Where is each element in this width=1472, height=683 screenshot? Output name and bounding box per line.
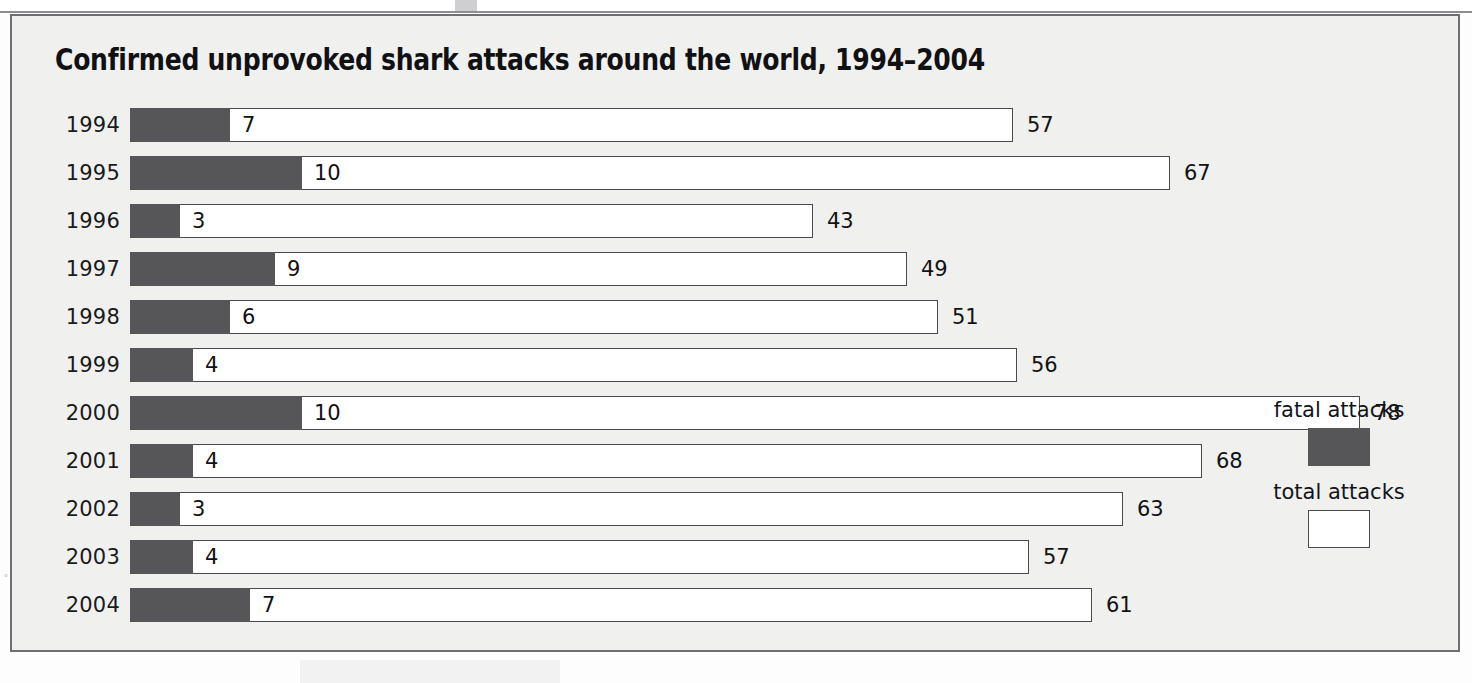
fatal-attacks-bar[interactable] — [130, 252, 275, 286]
year-label: 1994 — [42, 104, 120, 146]
chart-legend: fatal attacks total attacks — [1234, 398, 1444, 562]
year-label: 2004 — [42, 584, 120, 626]
fatal-attacks-bar[interactable] — [130, 444, 193, 478]
fatal-attacks-value: 4 — [205, 444, 218, 478]
total-attacks-value: 57 — [1027, 108, 1054, 142]
fatal-attacks-value: 4 — [205, 540, 218, 574]
scan-horizontal-rule — [0, 11, 1472, 13]
fatal-attacks-bar[interactable] — [130, 204, 180, 238]
fatal-attacks-bar[interactable] — [130, 300, 230, 334]
total-attacks-bar[interactable] — [130, 540, 1029, 574]
scan-bottom-smudge — [300, 660, 560, 683]
fatal-attacks-value: 10 — [314, 156, 341, 190]
year-label: 2000 — [42, 392, 120, 434]
total-attacks-bar[interactable] — [130, 348, 1017, 382]
bar-row: 1997949 — [12, 248, 1458, 290]
total-attacks-bar[interactable] — [130, 108, 1013, 142]
total-attacks-value: 49 — [921, 252, 948, 286]
year-label: 1996 — [42, 200, 120, 242]
year-label: 1999 — [42, 344, 120, 386]
legend-entry-total-attacks: total attacks — [1234, 480, 1444, 548]
fatal-attacks-bar[interactable] — [130, 348, 193, 382]
year-label: 2002 — [42, 488, 120, 530]
fatal-attacks-bar[interactable] — [130, 588, 250, 622]
fatal-attacks-bar[interactable] — [130, 108, 230, 142]
chart-title: Confirmed unprovoked shark attacks aroun… — [55, 42, 985, 77]
bar-row: 2004761 — [12, 584, 1458, 626]
fatal-attacks-value: 9 — [287, 252, 300, 286]
bar-row: 1994757 — [12, 104, 1458, 146]
total-attacks-value: 43 — [827, 204, 854, 238]
total-attacks-value: 63 — [1137, 492, 1164, 526]
year-label: 1997 — [42, 248, 120, 290]
bar-row: 1998651 — [12, 296, 1458, 338]
fatal-attacks-value: 4 — [205, 348, 218, 382]
total-attacks-bar[interactable] — [130, 492, 1123, 526]
bar-chart-plot-area: 1994757199510671996343199794919986511999… — [12, 104, 1458, 650]
legend-swatch-total-attacks — [1308, 510, 1370, 548]
chart-panel: Confirmed unprovoked shark attacks aroun… — [10, 14, 1460, 652]
total-attacks-bar[interactable] — [130, 444, 1202, 478]
bar-row: 1999456 — [12, 344, 1458, 386]
fatal-attacks-bar[interactable] — [130, 396, 302, 430]
legend-swatch-fatal-attacks — [1308, 428, 1370, 466]
total-attacks-value: 61 — [1106, 588, 1133, 622]
fatal-attacks-value: 7 — [262, 588, 275, 622]
total-attacks-value: 67 — [1184, 156, 1211, 190]
legend-label-total-attacks: total attacks — [1234, 480, 1444, 504]
fatal-attacks-value: 3 — [192, 492, 205, 526]
fatal-attacks-bar[interactable] — [130, 156, 302, 190]
fatal-attacks-value: 7 — [242, 108, 255, 142]
fatal-attacks-bar[interactable] — [130, 540, 193, 574]
total-attacks-value: 56 — [1031, 348, 1058, 382]
year-label: 2001 — [42, 440, 120, 482]
year-label: 2003 — [42, 536, 120, 578]
total-attacks-value: 57 — [1043, 540, 1070, 574]
total-attacks-bar[interactable] — [130, 204, 813, 238]
fatal-attacks-value: 6 — [242, 300, 255, 334]
bar-row: 19951067 — [12, 152, 1458, 194]
legend-entry-fatal-attacks: fatal attacks — [1234, 398, 1444, 466]
fatal-attacks-value: 3 — [192, 204, 205, 238]
total-attacks-value: 51 — [952, 300, 979, 334]
year-label: 1995 — [42, 152, 120, 194]
fatal-attacks-bar[interactable] — [130, 492, 180, 526]
year-label: 1998 — [42, 296, 120, 338]
legend-label-fatal-attacks: fatal attacks — [1234, 398, 1444, 422]
fatal-attacks-value: 10 — [314, 396, 341, 430]
bar-row: 1996343 — [12, 200, 1458, 242]
